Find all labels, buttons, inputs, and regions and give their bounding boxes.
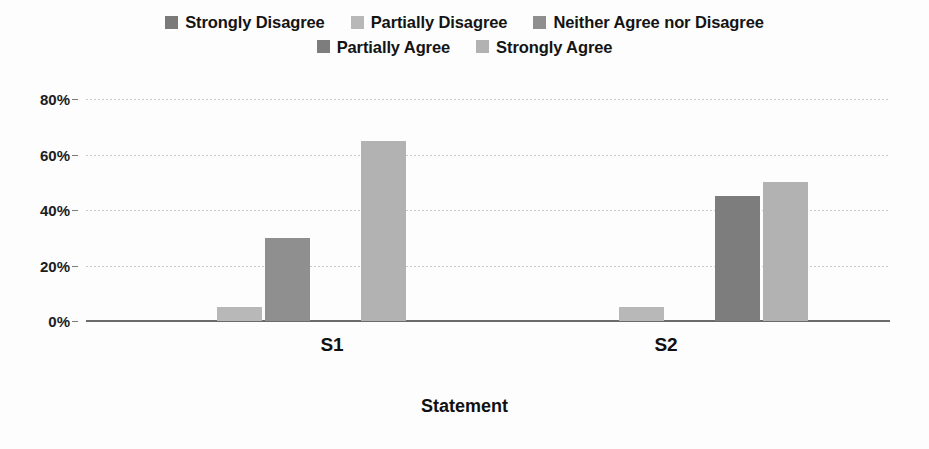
gridline-80 bbox=[86, 99, 890, 100]
bar-s1-series-2 bbox=[265, 238, 310, 321]
bar-s1-series-1 bbox=[217, 307, 262, 321]
y-tickmark-0 bbox=[72, 321, 78, 322]
y-tick-label-60: 60% bbox=[40, 146, 70, 163]
gridline-60 bbox=[86, 155, 890, 156]
y-tickmark-20 bbox=[72, 266, 78, 267]
y-tickmark-60 bbox=[72, 155, 78, 156]
x-axis-title: Statement bbox=[0, 396, 929, 417]
bar-s2-series-1 bbox=[619, 307, 664, 321]
y-tickmark-40 bbox=[72, 210, 78, 211]
y-tick-label-80: 80% bbox=[40, 91, 70, 108]
bar-s2-series-3 bbox=[715, 196, 760, 321]
plot-wrapper: 80% 60% 40% 20% 0% S1 S2 Statement bbox=[0, 0, 929, 449]
y-tick-label-40: 40% bbox=[40, 202, 70, 219]
y-tickmark-80 bbox=[72, 99, 78, 100]
bar-s2-series-4 bbox=[763, 182, 808, 321]
bar-s1-series-4 bbox=[361, 141, 406, 321]
y-tick-label-20: 20% bbox=[40, 257, 70, 274]
y-axis: 80% 60% 40% 20% 0% bbox=[0, 99, 78, 321]
x-tick-label-s2: S2 bbox=[654, 334, 677, 356]
plot-area bbox=[86, 99, 890, 321]
chart-container: Strongly Disagree Partially Disagree Nei… bbox=[0, 0, 929, 449]
x-tick-label-s1: S1 bbox=[320, 334, 343, 356]
y-tick-label-0: 0% bbox=[48, 313, 70, 330]
